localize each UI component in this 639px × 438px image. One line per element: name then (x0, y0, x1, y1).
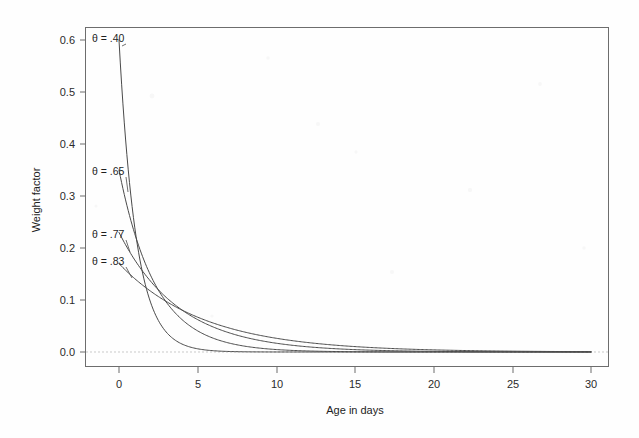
x-tick-label: 15 (349, 378, 361, 390)
series-label: θ = .83 (92, 255, 125, 267)
x-tick-label: 0 (116, 378, 122, 390)
x-tick-label: 5 (195, 378, 201, 390)
series-label: θ = .40 (92, 32, 125, 44)
y-tick-label: 0.1 (60, 294, 75, 306)
y-axis-title: Weight factor (30, 167, 42, 232)
chart-background (0, 0, 639, 438)
y-tick-label: 0.0 (60, 346, 75, 358)
y-tick-label: 0.4 (60, 138, 75, 150)
x-tick-label: 25 (507, 378, 519, 390)
y-tick-label: 0.5 (60, 86, 75, 98)
chart-page: 0.6 0.5 0.4 0.3 0.2 0.1 0.0 0 5 10 15 20… (0, 0, 639, 438)
y-tick-label: 0.3 (60, 190, 75, 202)
series-label: θ = .77 (92, 228, 125, 240)
y-tick-label: 0.2 (60, 242, 75, 254)
x-tick-label: 20 (428, 378, 440, 390)
x-tick-label: 10 (271, 378, 283, 390)
y-tick-label: 0.6 (60, 34, 75, 46)
x-tick-label: 30 (585, 378, 597, 390)
series-label: θ = .65 (92, 165, 125, 177)
x-axis-title: Age in days (326, 404, 384, 416)
weight-factor-decay-chart: 0.6 0.5 0.4 0.3 0.2 0.1 0.0 0 5 10 15 20… (0, 0, 639, 438)
